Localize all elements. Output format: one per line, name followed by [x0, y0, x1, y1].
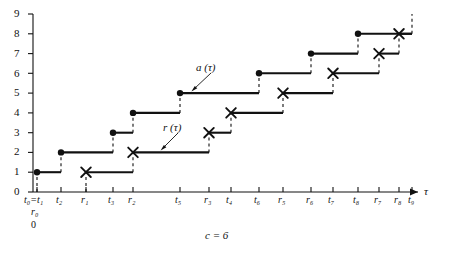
y-tick-label-3: 3 — [14, 127, 20, 138]
x-origin-label-r0: r₀ — [31, 207, 38, 217]
x-tick-label-t8: t₈ — [353, 195, 359, 205]
x-tick-label-t2: t₂ — [56, 195, 62, 205]
y-tick-label-4: 4 — [14, 107, 20, 118]
y-tick-label-2: 2 — [14, 146, 20, 157]
x-origin-label-zero: 0 — [31, 220, 36, 230]
x-tick-label-r7: r₇ — [374, 195, 381, 205]
annotation-leaders — [161, 73, 211, 150]
x-tick-label-t7: t₇ — [328, 195, 334, 205]
x-tick-label-r3: r₃ — [204, 195, 211, 205]
x-tick-label-t9: t₉ — [408, 195, 414, 205]
arrivals-step-curve — [37, 34, 412, 172]
x-tick-label-r8: r₈ — [394, 195, 401, 205]
y-tick-marks — [28, 14, 33, 192]
x-tick-label-t6: t₆ — [254, 195, 260, 205]
x-tick-label-r6: r₆ — [306, 195, 313, 205]
y-tick-label-9: 9 — [14, 8, 20, 19]
riser-dashed-lines — [37, 14, 412, 192]
step-function-chart — [0, 0, 458, 258]
annotation-a-tau: a (τ) — [196, 62, 216, 73]
y-tick-label-7: 7 — [14, 48, 20, 59]
y-tick-label-6: 6 — [14, 68, 20, 79]
figure-caption: c = 6 — [205, 230, 228, 241]
arrival-point-markers — [34, 31, 361, 176]
y-tick-label-5: 5 — [14, 87, 20, 98]
x-tick-label-r5: r₅ — [278, 195, 285, 205]
x-tick-label-t0-t1: t₀=t₁ — [24, 195, 43, 205]
x-tick-label-t4: t₄ — [226, 195, 232, 205]
figure-container: 9 8 7 6 5 4 3 2 1 0 t₀=t₁ t₂ r₁ t₃ r₂ t₅… — [0, 0, 458, 258]
x-axis-symbol-tau: τ — [424, 186, 428, 197]
annotation-r-tau: r (τ) — [163, 122, 181, 133]
x-tick-label-t5: t₅ — [175, 195, 181, 205]
y-tick-label-1: 1 — [14, 166, 20, 177]
x-tick-label-t3: t₃ — [108, 195, 114, 205]
x-tick-label-r1: r₁ — [81, 195, 88, 205]
axes-group — [28, 14, 418, 195]
x-tick-label-r2: r₂ — [128, 195, 135, 205]
x-tick-marks — [37, 187, 412, 192]
y-tick-label-0: 0 — [14, 186, 20, 197]
y-tick-label-8: 8 — [14, 28, 20, 39]
departure-point-markers — [81, 29, 404, 177]
